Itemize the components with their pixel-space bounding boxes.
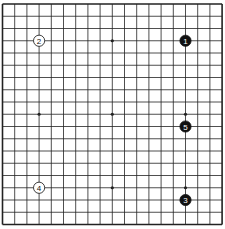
white-stone-4: 4 bbox=[34, 182, 45, 193]
star-point bbox=[184, 186, 187, 189]
star-point bbox=[111, 39, 114, 42]
black-stone-3: 3 bbox=[180, 194, 191, 205]
stone-number: 3 bbox=[183, 196, 188, 205]
star-point bbox=[38, 113, 41, 116]
star-point bbox=[111, 186, 114, 189]
stone-number: 2 bbox=[37, 37, 42, 46]
stone-number: 4 bbox=[37, 184, 42, 193]
black-stone-5: 5 bbox=[180, 121, 191, 132]
black-stone-1: 1 bbox=[180, 35, 191, 46]
star-point bbox=[111, 113, 114, 116]
star-point bbox=[184, 113, 187, 116]
stone-number: 1 bbox=[183, 37, 188, 46]
stone-number: 5 bbox=[183, 123, 188, 132]
white-stone-2: 2 bbox=[34, 35, 45, 46]
go-board: 12345 bbox=[0, 0, 225, 229]
